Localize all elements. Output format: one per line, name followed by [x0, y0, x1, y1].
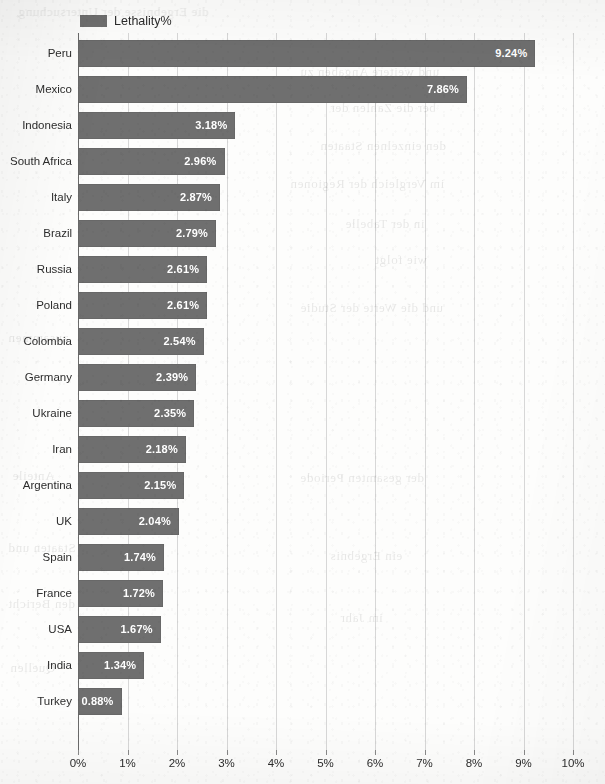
x-axis-label-7pct: 7% — [416, 757, 433, 769]
x-axis-tick — [375, 750, 376, 755]
lethality-bar-chart: Lethality% PeruMexicoIndonesiaSouth Afri… — [0, 0, 605, 784]
category-label-turkey: Turkey — [0, 688, 72, 715]
chart-page: die Ergebnisse der Untersuchung und weit… — [0, 0, 605, 784]
x-axis-label-10pct: 10% — [561, 757, 584, 769]
category-label-spain: Spain — [0, 544, 72, 571]
category-label-poland: Poland — [0, 292, 72, 319]
bar-row[interactable]: 2.15% — [78, 472, 573, 499]
x-axis-label-4pct: 4% — [268, 757, 285, 769]
x-axis-tick — [177, 750, 178, 755]
bar-row[interactable]: 2.39% — [78, 364, 573, 391]
bar-row[interactable]: 2.79% — [78, 220, 573, 247]
category-label-iran: Iran — [0, 436, 72, 463]
category-label-france: France — [0, 580, 72, 607]
x-axis-tick — [326, 750, 327, 755]
bar-row[interactable]: 2.61% — [78, 292, 573, 319]
bar-peru[interactable] — [78, 40, 535, 67]
category-label-south-africa: South Africa — [0, 148, 72, 175]
gridline — [573, 33, 574, 750]
bar-mexico[interactable] — [78, 76, 467, 103]
category-label-brazil: Brazil — [0, 220, 72, 247]
category-label-colombia: Colombia — [0, 328, 72, 355]
category-label-italy: Italy — [0, 184, 72, 211]
category-label-ukraine: Ukraine — [0, 400, 72, 427]
bar-row[interactable]: 2.18% — [78, 436, 573, 463]
legend-swatch-lethality — [80, 15, 107, 27]
bar-value-label: 1.34% — [104, 652, 136, 679]
bar-row[interactable]: 7.86% — [78, 76, 573, 103]
bar-value-label: 9.24% — [495, 40, 527, 67]
category-label-argentina: Argentina — [0, 472, 72, 499]
category-label-india: India — [0, 652, 72, 679]
x-axis-label-2pct: 2% — [169, 757, 186, 769]
bar-row[interactable]: 1.34% — [78, 652, 573, 679]
x-axis-label-8pct: 8% — [466, 757, 483, 769]
x-axis-tick — [128, 750, 129, 755]
category-label-mexico: Mexico — [0, 76, 72, 103]
bar-row[interactable]: 1.74% — [78, 544, 573, 571]
value-axis: 0%1%2%3%4%5%6%7%8%9%10% — [78, 750, 573, 780]
x-axis-tick — [524, 750, 525, 755]
category-label-indonesia: Indonesia — [0, 112, 72, 139]
bar-row[interactable]: 1.72% — [78, 580, 573, 607]
x-axis-label-1pct: 1% — [119, 757, 136, 769]
bar-value-label: 2.35% — [154, 400, 186, 427]
category-label-uk: UK — [0, 508, 72, 535]
chart-legend: Lethality% — [80, 15, 172, 28]
x-axis-tick — [78, 750, 79, 755]
bar-row[interactable]: 2.96% — [78, 148, 573, 175]
bar-value-label: 0.88% — [81, 688, 113, 715]
x-axis-tick — [573, 750, 574, 755]
category-axis: PeruMexicoIndonesiaSouth AfricaItalyBraz… — [0, 33, 72, 750]
category-label-germany: Germany — [0, 364, 72, 391]
category-label-peru: Peru — [0, 40, 72, 67]
bar-row[interactable]: 2.61% — [78, 256, 573, 283]
bar-value-label: 2.87% — [180, 184, 212, 211]
bar-value-label: 2.61% — [167, 292, 199, 319]
bar-value-label: 2.39% — [156, 364, 188, 391]
x-axis-label-3pct: 3% — [218, 757, 235, 769]
bar-value-label: 7.86% — [427, 76, 459, 103]
bar-value-label: 2.79% — [176, 220, 208, 247]
x-axis-tick — [425, 750, 426, 755]
bar-value-label: 2.61% — [167, 256, 199, 283]
bar-row[interactable]: 3.18% — [78, 112, 573, 139]
bar-value-label: 1.72% — [123, 580, 155, 607]
x-axis-tick — [227, 750, 228, 755]
bar-row[interactable]: 9.24% — [78, 40, 573, 67]
bar-value-label: 2.18% — [146, 436, 178, 463]
x-axis-label-5pct: 5% — [317, 757, 334, 769]
bar-value-label: 2.54% — [163, 328, 195, 355]
bar-row[interactable]: 2.87% — [78, 184, 573, 211]
bar-row[interactable]: 0.88% — [78, 688, 573, 715]
bar-value-label: 2.15% — [144, 472, 176, 499]
bar-value-label: 3.18% — [195, 112, 227, 139]
plot-area: 9.24%7.86%3.18%2.96%2.87%2.79%2.61%2.61%… — [78, 33, 573, 750]
category-label-usa: USA — [0, 616, 72, 643]
x-axis-tick — [474, 750, 475, 755]
bar-row[interactable]: 2.54% — [78, 328, 573, 355]
bar-value-label: 1.67% — [120, 616, 152, 643]
x-axis-tick — [276, 750, 277, 755]
bar-value-label: 2.04% — [139, 508, 171, 535]
x-axis-label-6pct: 6% — [367, 757, 384, 769]
legend-label-lethality: Lethality% — [114, 15, 172, 28]
x-axis-label-9pct: 9% — [515, 757, 532, 769]
bar-row[interactable]: 2.35% — [78, 400, 573, 427]
x-axis-label-0pct: 0% — [70, 757, 87, 769]
bar-row[interactable]: 2.04% — [78, 508, 573, 535]
bar-row[interactable]: 1.67% — [78, 616, 573, 643]
bar-value-label: 1.74% — [124, 544, 156, 571]
category-label-russia: Russia — [0, 256, 72, 283]
bar-value-label: 2.96% — [184, 148, 216, 175]
